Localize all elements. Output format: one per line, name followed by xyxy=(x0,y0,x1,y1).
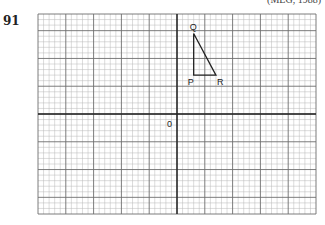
vertex-label-r: R xyxy=(217,77,224,87)
vertex-label-p: P xyxy=(188,77,194,87)
vertex-label-q: Q xyxy=(190,22,197,32)
axes xyxy=(38,14,316,214)
origin-label: 0 xyxy=(167,119,172,129)
graph-paper: 0QPR xyxy=(0,0,325,225)
